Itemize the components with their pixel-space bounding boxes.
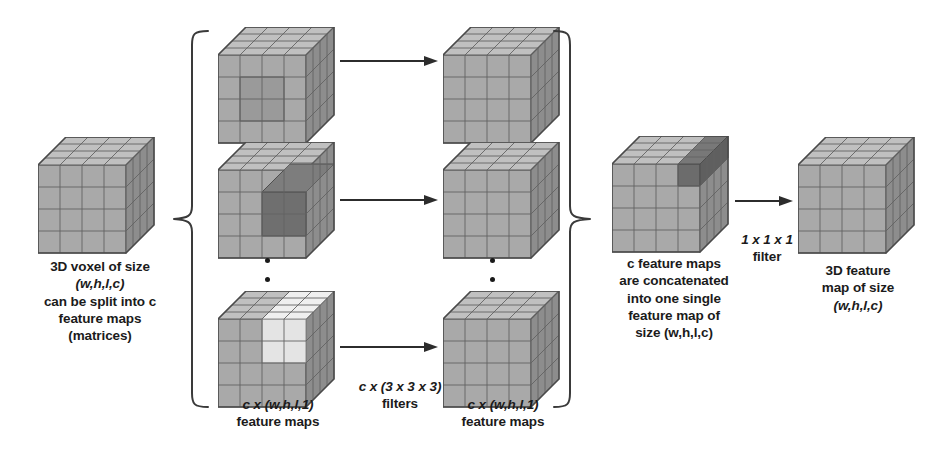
cube-channel-1 (218, 27, 336, 149)
cube-output (798, 137, 916, 259)
caption-concatenation: c feature maps are concatenated into one… (600, 255, 748, 341)
cube-conv-out-2 (443, 142, 561, 264)
cube-input-voxel (38, 137, 156, 259)
arrow-right-icon-4 (733, 192, 795, 214)
left-curly-brace-icon (168, 28, 210, 414)
arrow-right-icon-3 (338, 338, 440, 360)
figure-canvas: 3D voxel of size (w,h,l,c) can be split … (0, 0, 937, 463)
figure-title: 3D voxel split into c feature maps, 3x3x… (0, 0, 1, 1)
arrow-right-icon-1 (338, 52, 440, 74)
caption-output-feature-map: 3D feature map of size (w,h,l,c) (788, 262, 928, 314)
cube-conv-out-c (443, 291, 561, 413)
cube-channel-c (218, 291, 336, 413)
right-curly-brace-icon (550, 28, 596, 414)
cube-channel-2 (218, 142, 336, 264)
cube-conv-out-1 (443, 27, 561, 149)
arrow-right-icon-2 (338, 191, 440, 213)
